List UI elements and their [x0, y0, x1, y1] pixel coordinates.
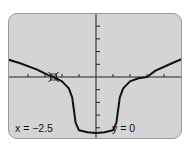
- x-readout: x = −2.5: [15, 122, 53, 134]
- y-readout: y = 0: [112, 122, 135, 134]
- graph-screen: x = −2.5 y = 0: [8, 13, 182, 139]
- graph-plot: [9, 14, 182, 139]
